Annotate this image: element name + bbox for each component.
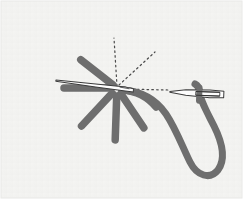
figure-root: An embroidery instruction illustration: … <box>0 0 243 199</box>
embroidery-diagram-svg <box>0 0 243 199</box>
diagram-panel <box>0 0 243 199</box>
needle-threaded-right-thread-through-eye <box>199 88 200 101</box>
stitch-arm-down <box>115 96 117 140</box>
